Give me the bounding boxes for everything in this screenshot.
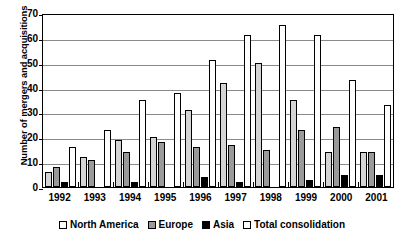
x-axis-tickmark: [323, 182, 324, 187]
x-tick-label: 1995: [148, 191, 183, 207]
bar-1995-europe[interactable]: [158, 142, 165, 187]
bar-groups: [43, 15, 393, 187]
x-tick-label: 1992: [42, 191, 77, 207]
y-axis-tick-labels: 010203040506070: [12, 14, 38, 188]
x-axis-tickmark: [358, 182, 359, 187]
bar-1997-asia[interactable]: [236, 182, 243, 187]
bar-group-2001: [358, 15, 393, 187]
x-axis-tickmark: [218, 182, 219, 187]
x-tick-label: 1997: [218, 191, 253, 207]
bar-1995-north-america[interactable]: [150, 137, 157, 187]
bar-group-1994: [113, 15, 148, 187]
bar-2000-total-consolidation[interactable]: [349, 80, 356, 187]
bar-1999-north-america[interactable]: [290, 100, 297, 187]
x-axis-tickmark: [113, 182, 114, 187]
bar-2001-north-america[interactable]: [360, 152, 367, 187]
y-tick-label: 70: [12, 9, 38, 19]
x-axis-tickmark: [183, 182, 184, 187]
bar-1999-asia[interactable]: [306, 180, 313, 187]
bar-1992-north-america[interactable]: [45, 172, 52, 187]
bar-2000-asia[interactable]: [341, 175, 348, 187]
legend-item-total-consolidation[interactable]: Total consolidation: [243, 219, 345, 230]
bar-2001-total-consolidation[interactable]: [384, 105, 391, 187]
bar-group-1995: [148, 15, 183, 187]
bar-1994-europe[interactable]: [123, 152, 130, 187]
x-axis-tickmark: [148, 182, 149, 187]
x-axis-tickmark: [288, 182, 289, 187]
legend-label: Asia: [213, 219, 234, 230]
bar-1994-asia[interactable]: [131, 182, 138, 187]
legend-swatch-icon: [59, 221, 67, 229]
bar-2001-europe[interactable]: [368, 152, 375, 187]
y-tick-label: 20: [12, 133, 38, 143]
legend-item-north-america[interactable]: North America: [59, 219, 139, 230]
bar-1997-total-consolidation[interactable]: [244, 35, 251, 187]
bar-group-1992: [43, 15, 78, 187]
y-axis-tickmark: [39, 189, 43, 190]
bar-1992-europe[interactable]: [53, 167, 60, 187]
x-axis-tick-labels: 1992199319941995199619971998199920002001: [42, 191, 394, 207]
bar-1996-north-america[interactable]: [185, 110, 192, 187]
x-tick-label: 2000: [324, 191, 359, 207]
bar-group-1996: [183, 15, 218, 187]
bar-group-1999: [288, 15, 323, 187]
legend-label: North America: [70, 219, 139, 230]
y-tick-label: 60: [12, 34, 38, 44]
bar-1996-europe[interactable]: [193, 147, 200, 187]
x-tick-label: 1998: [253, 191, 288, 207]
bar-2001-asia[interactable]: [376, 175, 383, 187]
x-axis-tickmark: [78, 182, 79, 187]
legend-item-asia[interactable]: Asia: [202, 219, 234, 230]
bar-1998-total-consolidation[interactable]: [279, 25, 286, 187]
bar-1993-europe[interactable]: [88, 160, 95, 187]
bar-1993-total-consolidation[interactable]: [104, 130, 111, 187]
x-tick-label: 1999: [288, 191, 323, 207]
bar-1992-asia[interactable]: [61, 182, 68, 187]
x-tick-label: 1993: [77, 191, 112, 207]
x-axis-tickmark: [253, 182, 254, 187]
chart-legend: North AmericaEuropeAsiaTotal consolidati…: [0, 219, 404, 230]
x-tick-label: 1994: [112, 191, 147, 207]
y-tick-label: 0: [12, 183, 38, 193]
bar-1992-total-consolidation[interactable]: [69, 147, 76, 187]
bar-1996-asia[interactable]: [201, 177, 208, 187]
legend-swatch-icon: [148, 221, 156, 229]
bar-1997-europe[interactable]: [228, 145, 235, 187]
bar-1998-north-america[interactable]: [255, 63, 262, 187]
chart-container: Number of mergers and acquisitions 01020…: [0, 0, 404, 241]
bar-group-1998: [253, 15, 288, 187]
y-tick-label: 10: [12, 158, 38, 168]
bar-1996-total-consolidation[interactable]: [209, 60, 216, 187]
plot-area: [42, 14, 394, 188]
bar-group-1993: [78, 15, 113, 187]
bar-2000-north-america[interactable]: [325, 152, 332, 187]
bar-1994-north-america[interactable]: [115, 140, 122, 187]
x-tick-label: 1996: [183, 191, 218, 207]
bar-group-1997: [218, 15, 253, 187]
bar-group-2000: [323, 15, 358, 187]
bar-1997-north-america[interactable]: [220, 83, 227, 187]
legend-swatch-icon: [202, 221, 210, 229]
y-tick-label: 50: [12, 59, 38, 69]
x-tick-label: 2001: [359, 191, 394, 207]
bar-1994-total-consolidation[interactable]: [139, 100, 146, 187]
bar-1998-europe[interactable]: [263, 150, 270, 187]
legend-label: Total consolidation: [254, 219, 345, 230]
bar-1999-total-consolidation[interactable]: [314, 35, 321, 187]
legend-label: Europe: [159, 219, 193, 230]
bar-1993-north-america[interactable]: [80, 157, 87, 187]
legend-item-europe[interactable]: Europe: [148, 219, 193, 230]
y-tick-label: 40: [12, 84, 38, 94]
y-tick-label: 30: [12, 108, 38, 118]
legend-swatch-icon: [243, 221, 251, 229]
bar-1999-europe[interactable]: [298, 130, 305, 187]
bar-2000-europe[interactable]: [333, 127, 340, 187]
bar-1995-total-consolidation[interactable]: [174, 93, 181, 187]
